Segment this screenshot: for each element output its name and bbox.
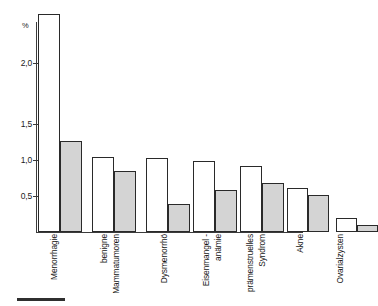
- x-label-anaemie: anämie: [214, 234, 223, 261]
- y-tick-label-1-0: 1,0: [2, 155, 32, 165]
- y-tick-label-1-5-wrap: 1,5: [0, 119, 32, 129]
- y-tick-label-2-0-wrap: 2,0: [0, 58, 32, 68]
- bar-akne-weiss: [287, 188, 308, 232]
- x-label-eisenmangel: Eisenmangel -: [202, 234, 211, 286]
- bar-dysmenorrhoe-weiss: [146, 158, 168, 232]
- bar-benigne-mammatumoren-grau: [114, 171, 136, 232]
- x-label-ovarialzysten: Ovarialzysten: [336, 234, 345, 283]
- x-label-syndrom: Syndrom: [258, 234, 267, 267]
- bar-eisenmangelanaemie-weiss: [193, 161, 215, 232]
- page-artifact-mark: [17, 298, 65, 301]
- y-tick-label-2-0: 2,0: [2, 58, 32, 68]
- x-label-mammatumoren: Mammatumoren: [112, 234, 121, 294]
- x-label-menorrhagie: Menorrhagie: [50, 234, 59, 280]
- bar-menorrhagie-weiss: [38, 14, 60, 232]
- x-label-akne: Akne: [296, 234, 305, 253]
- x-label-dysmenorrhoe: Dysmenorrhö: [160, 234, 169, 283]
- bar-praemenstruelles-syndrom-grau: [262, 183, 284, 232]
- x-label-benigne: benigne: [100, 234, 109, 263]
- x-label-praemenstruelles: prämenstruelles: [246, 234, 255, 292]
- y-tick-label-0-5-wrap: 0,5: [0, 191, 32, 201]
- y-tick-label-1-0-wrap: 1,0: [0, 155, 32, 165]
- y-tick-label-1-5: 1,5: [2, 119, 32, 129]
- bar-praemenstruelles-syndrom-weiss: [240, 166, 262, 232]
- bar-ovarialzysten-weiss: [336, 218, 357, 232]
- bar-eisenmangelanaemie-grau: [215, 190, 237, 232]
- bar-dysmenorrhoe-grau: [168, 204, 190, 232]
- bar-menorrhagie-grau: [60, 141, 82, 232]
- bar-ovarialzysten-grau: [357, 225, 378, 232]
- x-axis-category-labels: Menorrhagie benigne Mammatumoren Dysmeno…: [36, 234, 303, 306]
- bar-akne-grau: [308, 195, 329, 232]
- bar-benigne-mammatumoren-weiss: [92, 157, 114, 232]
- y-tick-label-0-5: 0,5: [2, 191, 32, 201]
- bars-container: [36, 22, 303, 232]
- y-axis-unit-label: %: [22, 21, 29, 30]
